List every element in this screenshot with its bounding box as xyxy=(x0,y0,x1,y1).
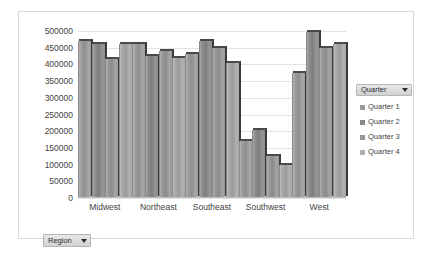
bar-front-face xyxy=(239,141,252,198)
bar-group xyxy=(292,31,346,198)
legend-item-label: Quarter 4 xyxy=(368,148,400,156)
x-axis-tick-label: Northeast xyxy=(132,202,186,212)
plot-area xyxy=(78,31,346,198)
bar[interactable] xyxy=(172,58,185,198)
x-axis: MidwestNortheastSoutheastSouthwestWest xyxy=(78,202,346,218)
bar-front-face xyxy=(145,56,158,198)
bar-front-face xyxy=(119,44,132,198)
y-axis-tick-label: 350000 xyxy=(45,77,73,86)
bar[interactable] xyxy=(105,59,118,198)
bar-front-face xyxy=(319,48,332,198)
legend-item[interactable]: Quarter 4 xyxy=(356,148,412,156)
bar[interactable] xyxy=(145,56,158,198)
bar-group xyxy=(78,31,132,198)
bar-front-face xyxy=(226,63,239,198)
bar-front-face xyxy=(199,41,212,198)
y-axis-tick-label: 50000 xyxy=(49,177,73,186)
legend-swatch-icon xyxy=(360,135,365,140)
legend-item-label: Quarter 1 xyxy=(368,103,400,111)
y-axis-tick-label: 0 xyxy=(68,194,73,203)
y-axis-tick-label: 500000 xyxy=(45,27,73,36)
bar[interactable] xyxy=(292,73,305,198)
y-axis-tick-label: 450000 xyxy=(45,44,73,53)
bar-front-face xyxy=(306,32,319,198)
bar[interactable] xyxy=(239,141,252,198)
bar-front-face xyxy=(266,156,279,198)
bar[interactable] xyxy=(266,156,279,198)
legend-swatch-icon xyxy=(360,105,365,110)
bar-front-face xyxy=(92,44,105,198)
bar-front-face xyxy=(292,73,305,198)
y-axis-tick-label: 400000 xyxy=(45,60,73,69)
legend-swatch-icon xyxy=(360,150,365,155)
bar-front-face xyxy=(212,48,225,198)
bar[interactable] xyxy=(119,44,132,198)
bar-group xyxy=(132,31,186,198)
legend-item-label: Quarter 3 xyxy=(368,133,400,141)
bar[interactable] xyxy=(78,41,91,198)
legend-title: Quarter xyxy=(361,85,386,95)
legend: Quarter Quarter 1Quarter 2Quarter 3Quart… xyxy=(356,84,412,156)
y-axis: 0500001000001500002000002500003000003500… xyxy=(19,25,76,205)
legend-item[interactable]: Quarter 1 xyxy=(356,103,412,111)
y-axis-tick-label: 250000 xyxy=(45,111,73,120)
bar-front-face xyxy=(159,51,172,198)
x-axis-tick-label: Midwest xyxy=(78,202,132,212)
bar[interactable] xyxy=(92,44,105,198)
bar[interactable] xyxy=(333,44,346,198)
y-axis-tick-label: 200000 xyxy=(45,127,73,136)
bar[interactable] xyxy=(159,51,172,198)
bar-side-face xyxy=(346,42,348,196)
bar-front-face xyxy=(252,130,265,198)
legend-item[interactable]: Quarter 2 xyxy=(356,118,412,126)
bar[interactable] xyxy=(319,48,332,198)
legend-filter-button[interactable]: Quarter xyxy=(356,84,412,96)
x-axis-tick-label: Southwest xyxy=(239,202,293,212)
legend-items: Quarter 1Quarter 2Quarter 3Quarter 4 xyxy=(356,103,412,156)
chevron-down-icon[interactable] xyxy=(81,239,87,243)
bar-front-face xyxy=(172,58,185,198)
y-axis-tick-label: 300000 xyxy=(45,94,73,103)
bar[interactable] xyxy=(252,130,265,198)
gridline xyxy=(78,198,346,199)
bar[interactable] xyxy=(279,165,292,198)
bar[interactable] xyxy=(306,32,319,198)
x-axis-tick-label: West xyxy=(292,202,346,212)
bar[interactable] xyxy=(185,54,198,198)
region-filter-button[interactable]: Region xyxy=(43,234,91,247)
y-axis-tick-label: 100000 xyxy=(45,161,73,170)
bar[interactable] xyxy=(199,41,212,198)
x-axis-tick-label: Southeast xyxy=(185,202,239,212)
bar-front-face xyxy=(185,54,198,198)
legend-item-label: Quarter 2 xyxy=(368,118,400,126)
region-filter-label: Region xyxy=(48,236,72,245)
bar-group xyxy=(185,31,239,198)
legend-swatch-icon xyxy=(360,120,365,125)
y-axis-tick-label: 150000 xyxy=(45,144,73,153)
x-axis-line xyxy=(78,197,346,198)
bar-front-face xyxy=(105,59,118,198)
chart-container: 0500001000001500002000002500003000003500… xyxy=(18,11,414,239)
chevron-down-icon[interactable] xyxy=(402,88,408,92)
bar-front-face xyxy=(333,44,346,198)
bar-group xyxy=(239,31,293,198)
bar[interactable] xyxy=(226,63,239,198)
bar-front-face xyxy=(279,165,292,198)
bar[interactable] xyxy=(132,44,145,198)
bar-front-face xyxy=(132,44,145,198)
bar[interactable] xyxy=(212,48,225,198)
bar-front-face xyxy=(78,41,91,198)
legend-item[interactable]: Quarter 3 xyxy=(356,133,412,141)
